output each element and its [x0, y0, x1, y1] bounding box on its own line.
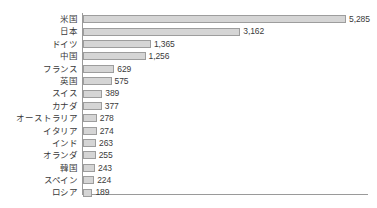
- category-label: 日本: [0, 25, 78, 37]
- category-label: 英国: [0, 75, 78, 87]
- bar-group: 189: [83, 186, 109, 198]
- value-label: 389: [105, 87, 119, 99]
- bar-group: 243: [83, 162, 112, 174]
- bar-group: 1,256: [83, 50, 169, 62]
- bar: [83, 151, 96, 159]
- chart-row: カナダ377: [0, 100, 377, 112]
- bar: [83, 90, 102, 98]
- bar: [83, 139, 96, 147]
- bar: [83, 164, 95, 172]
- category-label: 米国: [0, 13, 78, 25]
- bar: [83, 176, 94, 184]
- bar: [83, 77, 112, 85]
- chart-row: フランス629: [0, 63, 377, 75]
- category-label: 韓国: [0, 162, 78, 174]
- value-label: 629: [117, 63, 131, 75]
- bar: [83, 189, 92, 197]
- bar-group: 263: [83, 137, 113, 149]
- chart-row: 英国575: [0, 75, 377, 87]
- value-label: 1,365: [154, 38, 175, 50]
- bar: [83, 114, 97, 122]
- category-label: ドイツ: [0, 38, 78, 50]
- chart-row: イタリア274: [0, 125, 377, 137]
- bar: [83, 102, 102, 110]
- bar: [83, 52, 146, 60]
- value-label: 255: [99, 149, 113, 161]
- category-label: フランス: [0, 63, 78, 75]
- chart-row: 韓国243: [0, 162, 377, 174]
- bar-group: 389: [83, 87, 119, 99]
- value-label: 189: [95, 186, 109, 198]
- chart-row: インド263: [0, 137, 377, 149]
- bar: [83, 15, 346, 23]
- bar-group: 255: [83, 149, 113, 161]
- value-label: 224: [97, 174, 111, 186]
- bar-chart: 米国5,285日本3,162ドイツ1,365中国1,256フランス629英国57…: [0, 0, 377, 208]
- category-label: イタリア: [0, 125, 78, 137]
- category-label: 中国: [0, 50, 78, 62]
- value-label: 5,285: [349, 13, 370, 25]
- chart-row: スイス389: [0, 87, 377, 99]
- bar-group: 224: [83, 174, 111, 186]
- chart-row: ロシア189: [0, 186, 377, 198]
- bar: [83, 28, 240, 36]
- bar-group: 377: [83, 100, 119, 112]
- bar-group: 5,285: [83, 13, 370, 25]
- bar: [83, 127, 97, 135]
- chart-row: ドイツ1,365: [0, 38, 377, 50]
- value-label: 278: [100, 112, 114, 124]
- bar-group: 278: [83, 112, 114, 124]
- category-label: オランダ: [0, 149, 78, 161]
- bar-group: 274: [83, 125, 114, 137]
- value-label: 274: [100, 125, 114, 137]
- category-label: カナダ: [0, 100, 78, 112]
- value-label: 1,256: [149, 50, 170, 62]
- bar-group: 1,365: [83, 38, 175, 50]
- bar-group: 575: [83, 75, 129, 87]
- bar-group: 629: [83, 63, 131, 75]
- chart-row: オランダ255: [0, 149, 377, 161]
- value-label: 243: [98, 162, 112, 174]
- category-label: スイス: [0, 87, 78, 99]
- value-label: 263: [99, 137, 113, 149]
- category-label: インド: [0, 137, 78, 149]
- chart-row: 米国5,285: [0, 13, 377, 25]
- value-label: 3,162: [243, 25, 264, 37]
- bar: [83, 40, 151, 48]
- chart-row: 日本3,162: [0, 25, 377, 37]
- chart-row: スペイン224: [0, 174, 377, 186]
- category-label: ロシア: [0, 186, 78, 198]
- bar: [83, 65, 114, 73]
- category-label: オーストラリア: [0, 112, 78, 124]
- value-label: 377: [105, 100, 119, 112]
- chart-row: 中国1,256: [0, 50, 377, 62]
- chart-rows: 米国5,285日本3,162ドイツ1,365中国1,256フランス629英国57…: [0, 13, 377, 195]
- value-label: 575: [115, 75, 129, 87]
- chart-row: オーストラリア278: [0, 112, 377, 124]
- bar-group: 3,162: [83, 25, 264, 37]
- category-label: スペイン: [0, 174, 78, 186]
